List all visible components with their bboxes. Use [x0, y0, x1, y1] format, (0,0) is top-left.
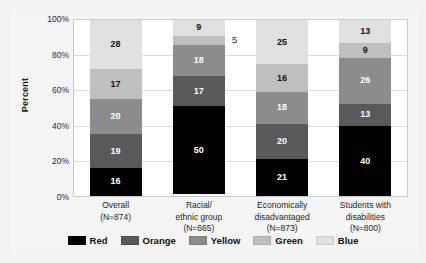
- legend-label: Green: [275, 235, 302, 246]
- y-axis-tick-60: 60%: [35, 85, 69, 95]
- bar-segment-value: 28: [111, 40, 121, 49]
- stacked-bar[interactable]: 2817201916: [90, 20, 142, 196]
- bar-segment-yellow[interactable]: 20: [90, 99, 142, 134]
- bar-segment-value: 19: [111, 147, 121, 156]
- bar-segment-value: 25: [277, 38, 287, 47]
- bar-segment-green[interactable]: 17: [90, 69, 142, 99]
- legend-swatch-icon: [121, 236, 139, 245]
- bar-segment-value: 17: [111, 80, 121, 89]
- x-axis-label: Overall(N=874): [74, 200, 157, 223]
- legend-label: Orange: [143, 235, 176, 246]
- bar-segment-yellow[interactable]: 18: [173, 45, 225, 77]
- legend-item-blue[interactable]: Blue: [316, 235, 359, 246]
- legend-item-green[interactable]: Green: [253, 235, 302, 246]
- bar-segment-blue[interactable]: 28: [90, 20, 142, 69]
- legend-item-red[interactable]: Red: [68, 235, 108, 246]
- x-axis-label-line: Students with: [324, 200, 407, 212]
- stacked-bar[interactable]: 95181750: [173, 20, 225, 196]
- bar-segment-orange[interactable]: 13: [339, 104, 391, 127]
- legend-swatch-icon: [68, 236, 86, 245]
- x-axis-label-line: Overall: [74, 200, 157, 212]
- bar-segment-red[interactable]: 40: [339, 126, 391, 196]
- bar-group: 2817201916: [74, 20, 157, 196]
- x-axis-label-line: (N=874): [74, 212, 157, 224]
- legend-item-orange[interactable]: Orange: [121, 235, 176, 246]
- y-axis-tick-0: 0%: [35, 192, 69, 202]
- stacked-bar[interactable]: 2516182021: [256, 20, 308, 196]
- bar-segment-red[interactable]: 50: [173, 106, 225, 194]
- x-axis-label-line: ethnic group: [157, 212, 240, 224]
- legend-swatch-icon: [316, 236, 334, 245]
- y-axis-tick-100: 100%: [35, 14, 69, 24]
- x-axis-label-line: disadvantaged: [241, 212, 324, 224]
- y-axis-tick-40: 40%: [35, 121, 69, 131]
- legend-item-yellow[interactable]: Yellow: [189, 235, 241, 246]
- plot-frame: Percent 100%80%60%40%20%0% 2817201916951…: [9, 10, 417, 254]
- x-axis-label-line: Racial/: [157, 200, 240, 212]
- bar-group: 95181750: [157, 20, 240, 196]
- bar-segment-yellow[interactable]: 26: [339, 58, 391, 103]
- bar-segment-value: 13: [360, 27, 370, 36]
- y-axis-title: Percent: [20, 60, 30, 130]
- stacked-bar-chart-figure: Percent 100%80%60%40%20%0% 2817201916951…: [0, 0, 426, 263]
- bar-segment-value: 13: [360, 110, 370, 119]
- bar-segment-blue[interactable]: 13: [339, 20, 391, 43]
- bar-segment-green[interactable]: 5: [173, 36, 225, 45]
- x-axis-label-line: disabilities: [324, 212, 407, 224]
- bars-container: 2817201916951817502516182021139261340: [74, 20, 407, 196]
- bar-segment-value: 50: [194, 146, 204, 155]
- legend-swatch-icon: [253, 236, 271, 245]
- bar-segment-value: 18: [277, 103, 287, 112]
- bar-segment-value: 16: [111, 177, 121, 186]
- bar-segment-value: 26: [360, 76, 370, 85]
- bar-segment-value: 9: [196, 23, 201, 32]
- bar-segment-green[interactable]: 16: [256, 64, 308, 92]
- bar-segment-orange[interactable]: 20: [256, 124, 308, 159]
- bar-segment-value: 17: [194, 87, 204, 96]
- bar-segment-value: 16: [277, 74, 287, 83]
- stacked-bar[interactable]: 139261340: [339, 20, 391, 196]
- bar-segment-value: 40: [360, 157, 370, 166]
- bar-segment-yellow[interactable]: 18: [256, 92, 308, 124]
- bar-segment-value: 5: [232, 35, 237, 45]
- legend-swatch-icon: [189, 236, 207, 245]
- y-axis-tick-labels: 100%80%60%40%20%0%: [31, 19, 69, 197]
- cut-off-chart-title: [0, 0, 426, 9]
- bar-segment-orange[interactable]: 19: [90, 134, 142, 167]
- x-axis-label-line: Economically: [241, 200, 324, 212]
- bar-segment-blue[interactable]: 25: [256, 20, 308, 64]
- bar-group: 2516182021: [241, 20, 324, 196]
- bar-segment-green[interactable]: 9: [339, 43, 391, 59]
- bar-segment-red[interactable]: 16: [90, 168, 142, 196]
- legend-label: Yellow: [211, 235, 241, 246]
- bar-segment-value: 21: [277, 173, 287, 182]
- bar-segment-value: 9: [363, 46, 368, 55]
- bar-segment-red[interactable]: 21: [256, 159, 308, 196]
- y-axis-tick-20: 20%: [35, 156, 69, 166]
- bar-segment-value: 20: [111, 112, 121, 121]
- bar-segment-blue[interactable]: 9: [173, 20, 225, 36]
- legend-label: Red: [90, 235, 108, 246]
- bar-segment-value: 20: [277, 137, 287, 146]
- y-axis-tick-80: 80%: [35, 50, 69, 60]
- bar-segment-orange[interactable]: 17: [173, 76, 225, 106]
- bar-group: 139261340: [324, 20, 407, 196]
- chart-legend: RedOrangeYellowGreenBlue: [9, 230, 417, 250]
- legend-label: Blue: [338, 235, 359, 246]
- bar-segment-value: 18: [194, 56, 204, 65]
